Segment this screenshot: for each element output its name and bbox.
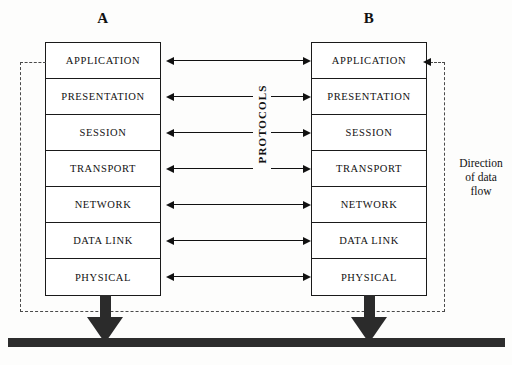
layer-a-physical: PHYSICAL [46,259,160,295]
layer-b-application: APPLICATION [312,43,426,79]
layer-b-transport: TRANSPORT [312,151,426,187]
layer-b-data-link: DATA LINK [312,223,426,259]
protocol-arrow-network [166,200,311,209]
protocols-label: PROTOCOLS [253,69,271,179]
transmission-medium-bar [8,338,505,347]
arrow-shaft [172,204,305,205]
arrowhead-left-icon [423,58,431,66]
arrowhead-right-icon [303,237,311,245]
layer-b-session: SESSION [312,115,426,151]
layer-a-application: APPLICATION [46,43,160,79]
protocol-arrow-session [166,128,311,137]
arrow-shaft [100,295,111,319]
layer-a-data-link: DATA LINK [46,223,160,259]
arrowhead-right-icon [303,93,311,101]
downward-flow-arrow-host-b [351,295,387,343]
dashed-connector-right-top [430,62,445,63]
arrowhead-right-icon [303,129,311,137]
arrow-shaft [172,240,305,241]
direction-of-data-flow-label: Direction of data flow [453,156,509,198]
arrow-shaft [172,96,305,97]
protocol-arrow-physical [166,272,311,281]
arrowhead-right-icon [303,201,311,209]
arrow-shaft [172,60,305,61]
flow-label-line-2: of data [453,170,509,184]
layer-stack-host-b: APPLICATION PRESENTATION SESSION TRANSPO… [311,42,427,296]
layer-a-transport: TRANSPORT [46,151,160,187]
layer-b-presentation: PRESENTATION [312,79,426,115]
layer-a-presentation: PRESENTATION [46,79,160,115]
flow-label-line-3: flow [453,184,509,198]
layer-a-session: SESSION [46,115,160,151]
osi-model-diagram: A B APPLICATION PRESENTATION SESSION TRA… [0,0,512,365]
protocol-arrow-data-link [166,236,311,245]
layer-stack-host-a: APPLICATION PRESENTATION SESSION TRANSPO… [45,42,161,296]
arrow-shaft [172,276,305,277]
dashed-connector-left [20,62,21,312]
arrow-shaft [172,168,305,169]
host-label-b: B [349,10,389,27]
layer-a-network: NETWORK [46,187,160,223]
dashed-connector-left-top [20,62,46,63]
layer-b-network: NETWORK [312,187,426,223]
arrow-shaft [172,132,305,133]
protocol-arrow-application [166,56,311,65]
layer-b-physical: PHYSICAL [312,259,426,295]
arrowhead-right-icon [303,57,311,65]
protocol-arrow-presentation [166,92,311,101]
downward-flow-arrow-host-a [87,295,123,343]
arrow-shaft [364,295,375,319]
host-label-a: A [83,10,123,27]
protocol-arrow-transport [166,164,311,173]
dashed-connector-right [444,62,445,312]
arrowhead-right-icon [303,165,311,173]
flow-label-line-1: Direction [453,156,509,170]
arrowhead-right-icon [303,273,311,281]
